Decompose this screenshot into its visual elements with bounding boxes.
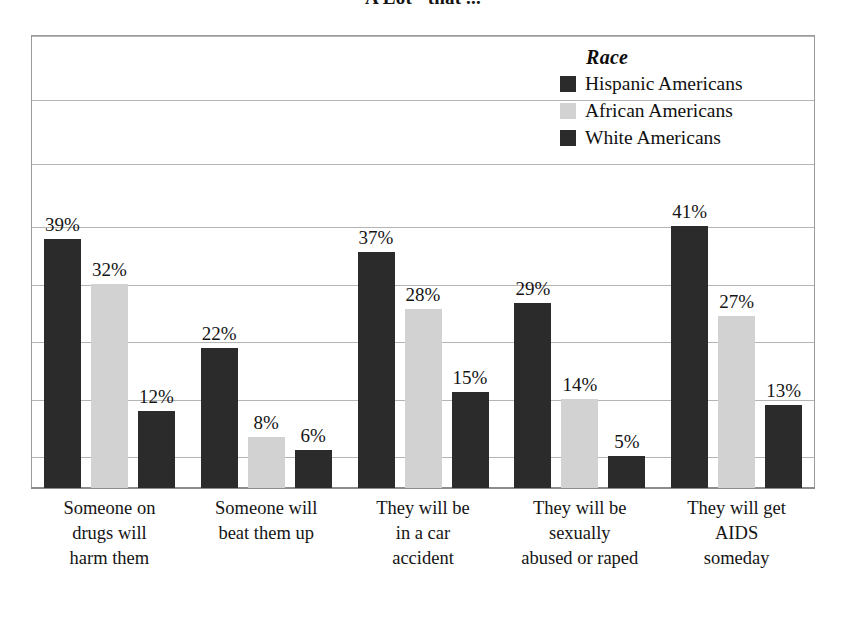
bar-value-label: 29% [500,278,565,300]
bar [671,226,708,488]
bar-value-label: 15% [438,367,503,389]
category-label: They will getAIDSsomeday [658,496,815,571]
category-label-line: AIDS [658,521,815,546]
category-label: They will bein a caraccident [345,496,502,571]
bar-value-label: 6% [281,425,346,447]
bar-value-label: 39% [30,214,95,236]
bar [561,399,598,488]
bar [248,437,285,488]
category-labels: Someone ondrugs willharm themSomeone wil… [31,496,815,588]
bar-value-label: 37% [344,227,409,249]
category-label-line: harm them [31,546,188,571]
bar [44,239,81,488]
bar [765,405,802,488]
bar [138,411,175,488]
bar-value-label: 41% [657,201,722,223]
category-label-line: in a car [345,521,502,546]
bars-layer: 39%32%12%22%8%6%37%28%15%29%14%5%41%27%1… [31,35,815,488]
category-label-line: They will be [345,496,502,521]
chart-title: A Lot" that ... [0,0,846,9]
bar-value-label: 32% [77,259,142,281]
category-label: Someone ondrugs willharm them [31,496,188,571]
bar [718,316,755,488]
bar [452,392,489,488]
bar [295,450,332,488]
category-label-line: They will be [501,496,658,521]
category-label-line: beat them up [188,521,345,546]
category-label-line: someday [658,546,815,571]
category-label-line: drugs will [31,521,188,546]
category-label-line: abused or raped [501,546,658,571]
bar [358,252,395,488]
bar [91,284,128,488]
category-label: Someone willbeat them up [188,496,345,546]
chart-page: A Lot" that ... Race Hispanic AmericansA… [0,0,846,622]
bar-value-label: 5% [594,431,659,453]
category-label-line: They will get [658,496,815,521]
category-label: They will besexuallyabused or raped [501,496,658,571]
bar-value-label: 22% [187,323,252,345]
category-label-line: Someone will [188,496,345,521]
category-label-line: Someone on [31,496,188,521]
category-label-line: accident [345,546,502,571]
bar-value-label: 28% [391,284,456,306]
bar [608,456,645,488]
bar [514,303,551,488]
bar-value-label: 27% [704,291,769,313]
bar [201,348,238,488]
bar-value-label: 12% [124,386,189,408]
bar [405,309,442,488]
category-label-line: sexually [501,521,658,546]
bar-value-label: 13% [751,380,816,402]
bar-value-label: 14% [547,374,612,396]
